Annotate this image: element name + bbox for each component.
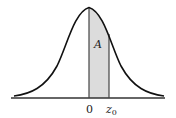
origin-label: 0 — [86, 103, 93, 116]
normal-curve-diagram: A 0 z0 — [0, 0, 176, 118]
area-label: A — [93, 38, 102, 51]
shaded-area-a — [89, 8, 109, 99]
z0-label: z0 — [105, 103, 117, 117]
z0-label-subscript: 0 — [112, 108, 117, 117]
